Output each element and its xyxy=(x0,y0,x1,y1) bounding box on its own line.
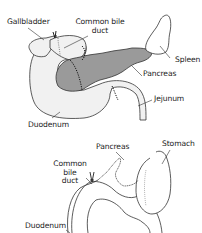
stomach-shape xyxy=(136,151,171,214)
leader-pancreas-bottom xyxy=(116,152,124,160)
label-duodenum-bottom: Duodenum xyxy=(25,222,66,231)
label-cbd-bottom-line3: duct xyxy=(52,177,88,186)
label-cbd-top-line2: duct xyxy=(74,27,126,36)
label-spleen: Spleen xyxy=(175,56,200,65)
leader-pancreas-top xyxy=(132,66,142,76)
bile-duct-clip-bottom xyxy=(90,172,94,182)
label-duodenum-top: Duodenum xyxy=(28,121,69,130)
leader-gallbladder xyxy=(28,28,44,40)
label-common-bile-duct-bottom: Common bile duct xyxy=(52,160,88,186)
label-gallbladder: Gallbladder xyxy=(7,18,50,27)
label-pancreas-bottom: Pancreas xyxy=(96,143,129,152)
label-common-bile-duct-top: Common bile duct xyxy=(74,18,126,35)
anatomy-figure: Gallbladder Common bile duct Spleen Panc… xyxy=(0,0,202,233)
spleen-shape xyxy=(146,15,171,54)
label-stomach: Stomach xyxy=(162,140,195,149)
label-jejunum: Jejunum xyxy=(154,95,184,104)
pancreatic-anastomosis xyxy=(98,158,138,186)
label-pancreas-top: Pancreas xyxy=(143,70,176,79)
resection-line-jejunum xyxy=(112,86,118,100)
